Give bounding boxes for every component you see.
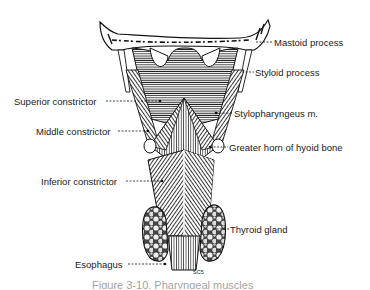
label-styloid-process: Styloid process <box>255 67 319 78</box>
left-hyoid-horn <box>144 139 156 153</box>
esophagus-tube <box>168 236 200 270</box>
vertebra-mark: SC5 <box>193 269 204 275</box>
label-greater-horn-hyoid: Greater horn of hyoid bone <box>229 142 343 153</box>
left-thyroid-lobe <box>143 207 169 262</box>
skull-base <box>100 20 270 50</box>
label-esophagus: Esophagus <box>75 259 123 270</box>
right-thyroid-lobe <box>200 205 226 261</box>
label-superior-constrictor: Superior constrictor <box>14 96 96 107</box>
right-hyoid-horn <box>212 139 224 153</box>
label-thyroid-gland: Thyroid gland <box>230 224 288 235</box>
label-middle-constrictor: Middle constrictor <box>36 126 110 137</box>
label-mastoid-process: Mastoid process <box>274 37 343 48</box>
figure-caption: Figure 3-10. Pharyngeal muscles <box>92 279 302 289</box>
label-inferior-constrictor: Inferior constrictor <box>41 176 117 187</box>
label-stylopharyngeus: Stylopharyngeus m. <box>234 108 318 119</box>
